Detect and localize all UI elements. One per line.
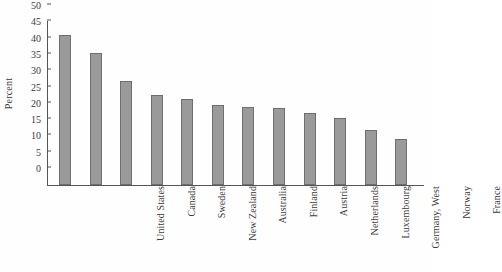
y-axis-tick: 25	[31, 77, 47, 95]
bar	[273, 108, 285, 185]
y-axis-tick: 15	[31, 109, 47, 127]
y-axis-tick-label: 25	[31, 82, 47, 93]
y-axis-tick-mark	[47, 101, 51, 102]
y-axis-tick-mark	[47, 150, 51, 151]
y-axis-tick: 0	[36, 158, 47, 176]
y-axis-tick-label: 45	[31, 16, 47, 27]
y-axis-tick: 10	[31, 125, 47, 143]
x-axis-tick-label: Luxembourg	[400, 186, 411, 272]
bar	[304, 113, 316, 185]
y-axis-tick-label: 10	[31, 130, 47, 141]
y-axis-tick-mark	[47, 69, 51, 70]
x-axis-tick-labels: United StatesCanadaSwedenNew ZealandAust…	[47, 186, 424, 272]
y-axis-tick: 45	[31, 11, 47, 29]
y-axis-tick-mark	[47, 85, 51, 86]
x-axis-tick-label: Germany, West	[430, 186, 441, 272]
x-axis-tick-label: Norway	[461, 186, 472, 272]
y-axis-tick-mark	[47, 20, 51, 21]
y-axis-tick: 35	[31, 44, 47, 62]
bar	[242, 107, 254, 185]
y-axis-tick-label: 35	[31, 49, 47, 60]
y-axis-tick-label: 30	[31, 65, 47, 76]
y-axis-tick-label: 15	[31, 114, 47, 125]
y-axis-tick: 30	[31, 60, 47, 78]
bar	[59, 35, 71, 185]
x-axis-tick-label: France	[491, 186, 502, 272]
x-axis-tick-label: Netherlands	[369, 186, 380, 272]
plot-area: 05101520253035404550	[47, 22, 424, 185]
x-axis-tick-label: Austria	[338, 186, 349, 272]
y-axis-tick: 20	[31, 93, 47, 111]
bar	[212, 105, 224, 185]
x-axis-tick-label: Finland	[308, 186, 319, 272]
bar	[151, 95, 163, 185]
y-axis-tick-mark	[47, 167, 51, 168]
y-axis-tick-label: 40	[31, 33, 47, 44]
bar	[334, 118, 346, 185]
x-axis-tick-label: New Zealand	[247, 186, 258, 272]
bar	[181, 99, 193, 185]
x-axis-tick-label: United States	[155, 186, 166, 272]
y-axis-tick: 40	[31, 28, 47, 46]
bar	[120, 81, 132, 185]
y-axis-tick-mark	[47, 52, 51, 53]
y-axis-tick-mark	[47, 134, 51, 135]
bar	[365, 130, 377, 185]
y-axis-tick-label: 5	[36, 147, 47, 158]
bar	[90, 53, 102, 185]
y-axis-tick-label: 50	[31, 0, 47, 11]
x-axis-tick-label: Canada	[186, 186, 197, 272]
y-axis-title: Percent	[3, 59, 14, 129]
y-axis-tick: 50	[31, 0, 47, 13]
bar	[395, 139, 407, 185]
y-axis-tick-label: 20	[31, 98, 47, 109]
x-axis-tick-label: Australia	[277, 186, 288, 272]
y-axis-tick: 5	[36, 142, 47, 160]
y-axis-tick-label: 0	[36, 163, 47, 174]
y-axis-tick-mark	[47, 118, 51, 119]
y-axis-tick-mark	[47, 36, 51, 37]
y-axis-tick-mark	[47, 4, 51, 5]
x-axis-tick-label: Sweden	[216, 186, 227, 272]
